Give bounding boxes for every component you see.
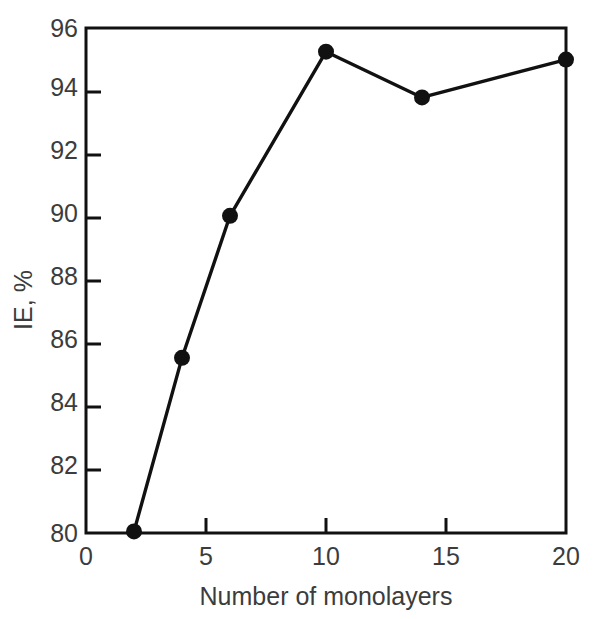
data-point [558, 52, 574, 68]
x-tick-label: 20 [552, 542, 580, 570]
data-point [222, 208, 238, 224]
y-tick-label: 90 [50, 199, 78, 227]
y-tick-label: 94 [50, 73, 78, 101]
chart-figure: 96 94 92 90 88 86 84 82 80 IE, % 0 5 10 … [0, 0, 599, 619]
data-point [414, 89, 430, 105]
x-axis-title: Number of monolayers [200, 582, 453, 610]
x-tick-label: 5 [199, 542, 213, 570]
y-tick-label: 80 [50, 519, 78, 547]
y-axis-tick-labels: 96 94 92 90 88 86 84 82 80 [50, 14, 78, 547]
data-point [318, 44, 334, 60]
x-tick-label: 15 [432, 542, 460, 570]
y-tick-label: 92 [50, 136, 78, 164]
x-tick-label: 10 [312, 542, 340, 570]
x-tick-label: 0 [79, 542, 93, 570]
y-tick-label: 88 [50, 262, 78, 290]
data-point [126, 523, 142, 539]
y-axis-title: IE, % [9, 270, 37, 330]
y-tick-label: 82 [50, 451, 78, 479]
y-tick-label: 86 [50, 325, 78, 353]
data-point [174, 350, 190, 366]
y-tick-label: 84 [50, 388, 78, 416]
y-tick-label: 96 [50, 14, 78, 42]
